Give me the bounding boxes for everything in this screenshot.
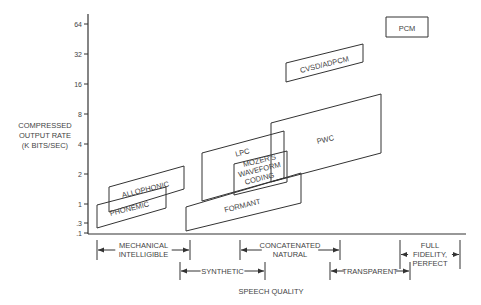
range-label: SYNTHETIC <box>201 267 244 276</box>
arrowhead-right <box>403 269 409 274</box>
range-label: CONCATENATED <box>260 241 322 250</box>
y-axis: 6432168421.3.1 <box>74 14 88 237</box>
y-tick-label: 16 <box>74 81 82 88</box>
arrowhead-left <box>401 252 407 257</box>
region-cvsd-adpcm: CVSD/ADPCM <box>286 44 363 82</box>
arrowhead-left <box>98 248 104 253</box>
y-tick-label: 64 <box>74 21 82 28</box>
quality-range: SYNTHETIC <box>180 262 265 280</box>
arrowhead-right <box>333 248 339 253</box>
range-label: NATURAL <box>273 250 307 259</box>
y-tick-label: 1 <box>78 201 82 208</box>
y-tick-label: .1 <box>76 230 82 237</box>
arrowhead-right <box>453 252 459 257</box>
region-pcm: PCM <box>386 17 428 37</box>
range-label: INTELLIGIBLE <box>119 250 169 259</box>
y-tick-label: 32 <box>74 51 82 58</box>
range-label: FULL <box>421 241 439 250</box>
quality-range: MECHANICALINTELLIGIBLE <box>97 240 190 260</box>
arrowhead-right <box>183 248 189 253</box>
coding-regions: PCMCVSD/ADPCMPWCLPCMOZER'SWAVEFORMCODING… <box>97 17 428 231</box>
range-label: PERFECT <box>412 259 447 268</box>
region-label: PHONEMIC <box>109 199 151 218</box>
quality-range: TRANSPARENT <box>330 262 410 280</box>
range-label: FIDELITY, <box>413 250 447 259</box>
region-label: PWC <box>316 133 336 146</box>
arrowhead-left <box>331 269 337 274</box>
region-label: FORMANT <box>223 197 262 215</box>
range-label: TRANSPARENT <box>342 267 398 276</box>
region-formant: FORMANT <box>186 173 301 231</box>
y-axis-label-line: COMPRESSED <box>18 121 72 130</box>
quality-range: FULLFIDELITY,PERFECT <box>400 240 460 269</box>
range-label: MECHANICAL <box>119 241 168 250</box>
quality-range: CONCATENATEDNATURAL <box>240 240 340 260</box>
y-tick-label: 8 <box>78 111 82 118</box>
arrowhead-right <box>258 269 264 274</box>
y-tick-label: 4 <box>78 141 82 148</box>
arrowhead-left <box>241 248 247 253</box>
speech-coding-diagram: COMPRESSEDOUTPUT RATE(K BITS/SEC) 643216… <box>0 0 481 305</box>
region-label: LPC <box>234 146 251 158</box>
y-axis-label-line: (K BITS/SEC) <box>22 141 69 150</box>
x-axis-label: SPEECH QUALITY <box>238 287 303 296</box>
region-label: PCM <box>399 24 416 33</box>
y-axis-label: COMPRESSEDOUTPUT RATE(K BITS/SEC) <box>18 121 72 150</box>
y-axis-label-line: OUTPUT RATE <box>19 131 71 140</box>
arrowhead-left <box>181 269 187 274</box>
y-tick-label: 2 <box>78 171 82 178</box>
y-tick-label: .3 <box>76 220 82 227</box>
region-mozer-s-waveform-coding: MOZER'SWAVEFORMCODING <box>234 151 287 195</box>
diagram-canvas: COMPRESSEDOUTPUT RATE(K BITS/SEC) 643216… <box>0 0 481 305</box>
quality-ranges: MECHANICALINTELLIGIBLESYNTHETICCONCATENA… <box>97 240 460 280</box>
